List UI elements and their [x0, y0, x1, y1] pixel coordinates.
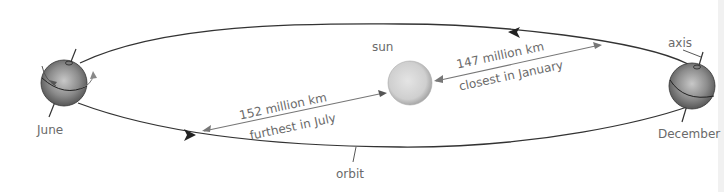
sun-label: sun [372, 40, 393, 54]
orbit-label: orbit [336, 167, 364, 181]
sun-icon [388, 61, 432, 105]
orbit-direction-arrow-bottom [184, 129, 196, 141]
orbit-pointer-line [353, 147, 356, 162]
december-label: December [658, 127, 720, 141]
june-label: June [36, 123, 63, 137]
earth-december-icon [669, 52, 715, 122]
axis-pointer-line [683, 50, 701, 57]
orbit-diagram: sun June axis December 152 million km fu… [0, 0, 724, 192]
axis-label: axis [668, 36, 692, 50]
